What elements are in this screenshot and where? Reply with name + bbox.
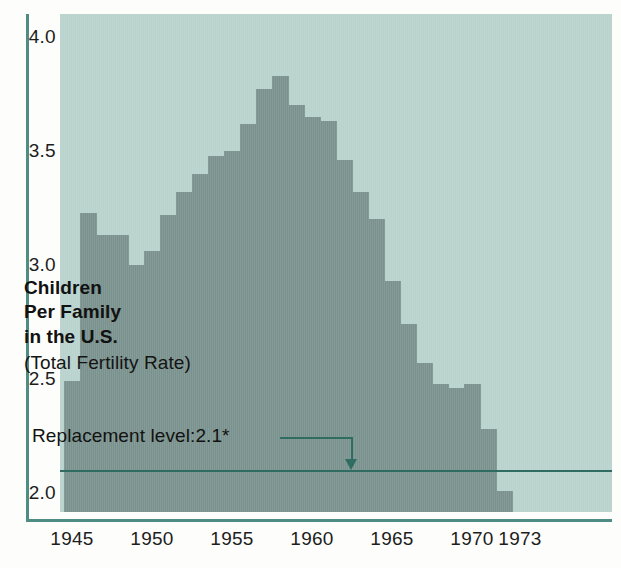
bar-1964 (368, 219, 385, 512)
bar-1966 (400, 324, 417, 512)
chart-title-line-3: in the U.S. (24, 325, 121, 349)
bar-1958 (272, 76, 289, 512)
bar-1950 (144, 251, 161, 512)
y-tick-3.0: 3.0 (10, 254, 56, 276)
x-tick-1965: 1965 (370, 528, 413, 550)
x-tick-1945: 1945 (50, 528, 93, 550)
chart-title: Children Per Family in the U.S. (24, 276, 121, 349)
bar-1959 (288, 105, 305, 512)
y-tick-3.5: 3.5 (10, 140, 56, 162)
replacement-leader-drop (351, 437, 353, 460)
x-tick-1970: 1970 (450, 528, 493, 550)
chart-title-line-2: Per Family (24, 300, 121, 324)
x-tick-1960: 1960 (290, 528, 333, 550)
y-tick-4.0: 4.0 (10, 26, 56, 48)
replacement-level-line (60, 470, 612, 472)
bar-1961 (320, 121, 337, 512)
bar-1965 (384, 281, 401, 512)
bar-1968 (432, 384, 449, 512)
bar-1953 (192, 174, 209, 512)
bar-1969 (448, 388, 465, 512)
replacement-arrow-icon (345, 459, 357, 470)
x-tick-1950: 1950 (130, 528, 173, 550)
x-tick-1973: 1973 (498, 528, 541, 550)
bar-1967 (416, 363, 433, 512)
bar-1949 (128, 265, 145, 512)
chart-subtitle: (Total Fertility Rate) (24, 352, 191, 374)
bar-1957 (256, 89, 273, 512)
replacement-level-label: Replacement level:2.1* (32, 425, 230, 447)
y-tick-2.0: 2.0 (10, 482, 56, 504)
bar-1954 (208, 156, 225, 512)
bar-1970 (464, 384, 481, 512)
bar-1972 (496, 491, 513, 512)
replacement-leader-line (280, 437, 352, 439)
x-tick-1955: 1955 (210, 528, 253, 550)
fertility-rate-chart: 4.03.53.02.52.0 194519501955196019651970… (0, 0, 621, 568)
bar-1955 (224, 151, 241, 512)
x-axis-line (26, 519, 612, 522)
chart-title-line-1: Children (24, 276, 121, 300)
bar-1956 (240, 124, 257, 512)
bar-1960 (304, 117, 321, 512)
